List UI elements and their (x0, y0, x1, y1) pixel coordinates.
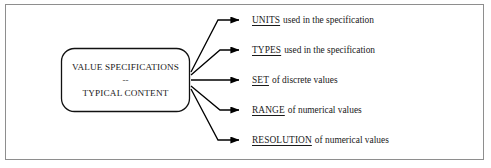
branch-keyword-set: SET (252, 72, 269, 88)
diagram-canvas: VALUE SPECIFICATIONS -- TYPICAL CONTENT … (0, 0, 491, 168)
branch-label-range: RANGE of numerical values (252, 102, 362, 118)
branch-description-range: of numerical values (288, 102, 362, 118)
branch-keyword-range: RANGE (252, 102, 285, 118)
diagram-vector-layer (0, 0, 491, 168)
branch-keyword-resolution: RESOLUTION (252, 132, 312, 148)
branch-keyword-types: TYPES (252, 42, 281, 58)
branch-keyword-units: UNITS (252, 12, 280, 28)
connector-range (191, 86, 239, 110)
branch-description-types: used in the specification (284, 42, 375, 58)
connector-units (191, 20, 239, 72)
branch-label-resolution: RESOLUTION of numerical values (252, 132, 389, 148)
branch-description-set: of discrete values (272, 72, 338, 88)
source-node-shape (62, 49, 190, 112)
branch-label-units: UNITS used in the specification (252, 12, 374, 28)
connector-resolution (191, 89, 239, 140)
branch-description-resolution: of numerical values (315, 132, 389, 148)
branch-description-units: used in the specification (283, 12, 374, 28)
connector-types (191, 50, 239, 75)
branch-label-types: TYPES used in the specification (252, 42, 375, 58)
branch-label-set: SET of discrete values (252, 72, 338, 88)
